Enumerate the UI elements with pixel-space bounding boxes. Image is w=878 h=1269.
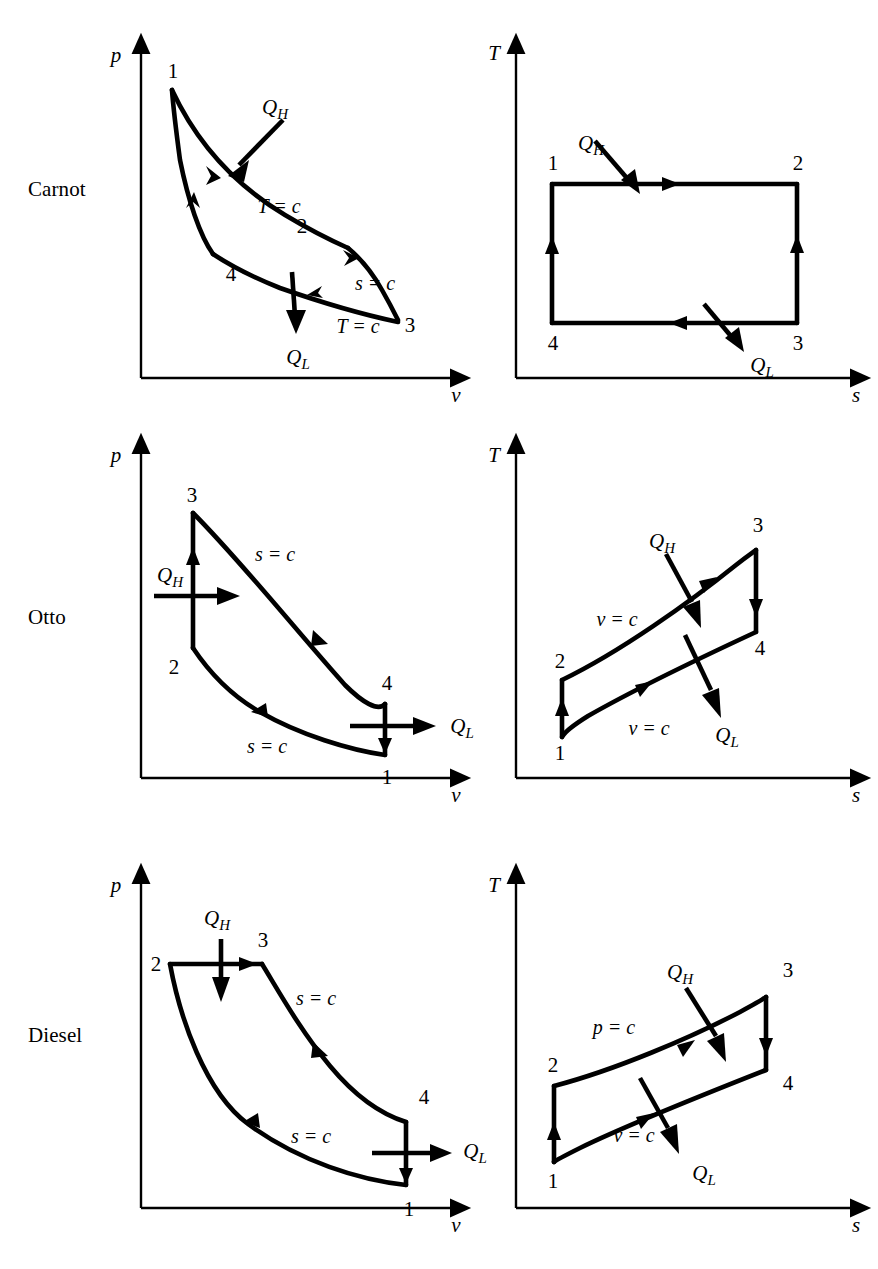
diesel-ts-label-isobaric: p = c xyxy=(591,1016,635,1039)
diesel-ts-label-isochoric: v = c xyxy=(613,1124,654,1146)
otto-pv-diagram: p v 3 2 4 1 s = c s = c xyxy=(0,420,440,840)
carnot-ts-diagram: T s 1 2 3 4 QH QL xyxy=(440,0,878,420)
carnot-pv-flow-arrow-1-2 xyxy=(206,166,221,185)
otto-ts-qh-arrow-shaft xyxy=(666,554,692,602)
carnot-ts-panel: T s 1 2 3 4 QH QL xyxy=(440,0,878,420)
cycle-row-carnot: Carnot p v xyxy=(0,0,878,420)
otto-pv-state-4: 4 xyxy=(382,671,393,695)
carnot-ts-flow-arrow-3-4 xyxy=(669,316,687,330)
otto-pv-flow-arrow-2-3 xyxy=(186,547,200,565)
carnot-pv-ql-label: QL xyxy=(286,345,310,372)
carnot-pv-state-3: 3 xyxy=(405,313,416,337)
otto-pv-qh-arrow-head xyxy=(217,587,240,605)
diesel-pv-qh-arrow-head xyxy=(212,977,230,1002)
carnot-pv-qh-label: QH xyxy=(262,95,289,122)
diesel-ts-flow-arrow-1-2 xyxy=(547,1122,561,1140)
otto-pv-state-3: 3 xyxy=(187,483,198,507)
carnot-pv-state-1: 1 xyxy=(168,59,179,83)
diesel-pv-state-1: 1 xyxy=(404,1197,415,1221)
carnot-pv-process-4-1 xyxy=(172,90,213,254)
otto-pv-label-isentropic-compression: s = c xyxy=(247,735,287,757)
otto-ts-ql-label: QL xyxy=(715,723,739,750)
diesel-ts-qh-label: QH xyxy=(667,960,694,987)
diesel-pv-label-isentropic-compression: s = c xyxy=(291,1125,331,1147)
cycle-row-otto: Otto p v 3 2 xyxy=(0,420,878,840)
diesel-ts-state-1: 1 xyxy=(548,1169,559,1193)
carnot-pv-label-isothermal-low: T = c xyxy=(336,315,379,337)
carnot-pv-qh-arrow-shaft xyxy=(239,120,283,165)
diesel-pv-process-1-2 xyxy=(170,964,406,1185)
otto-pv-y-axis-label: p xyxy=(109,443,122,467)
carnot-ts-x-axis-label: s xyxy=(852,383,860,407)
diesel-pv-label-isentropic-expansion: s = c xyxy=(296,987,336,1009)
diesel-ts-diagram: QL T s 2 1 3 4 xyxy=(440,840,878,1269)
otto-ts-ql-arrow-head xyxy=(702,688,721,718)
otto-ts-x-axis-label: s xyxy=(852,783,860,807)
diesel-ts-ql-label: QL xyxy=(692,1161,716,1188)
cycle-row-diesel: Diesel p v 2 3 xyxy=(0,840,878,1269)
carnot-pv-panel: p v 1 2 3 4 T xyxy=(0,0,440,420)
diesel-ts-flow-arrow-3-4 xyxy=(759,1038,773,1056)
diesel-ts-ql-arrow-head xyxy=(660,1124,679,1154)
otto-pv-state-2: 2 xyxy=(169,655,180,679)
carnot-ts-flow-arrow-2-3 xyxy=(790,235,804,253)
carnot-pv-y-axis-label: p xyxy=(109,43,122,67)
carnot-ts-flow-arrow-1-2 xyxy=(662,177,680,191)
carnot-ts-state-4: 4 xyxy=(548,331,559,355)
diesel-pv-panel: p v 2 3 4 1 s = c s = c xyxy=(0,840,440,1269)
carnot-ts-y-axis-label: T xyxy=(488,41,501,65)
carnot-ts-flow-arrow-4-1 xyxy=(545,236,559,254)
carnot-pv-state-2: 2 xyxy=(297,214,308,238)
carnot-pv-label-isentropic: s = c xyxy=(355,272,395,294)
diesel-pv-state-2: 2 xyxy=(151,952,162,976)
otto-pv-process-1-2 xyxy=(193,648,385,755)
carnot-ts-state-3: 3 xyxy=(793,331,804,355)
otto-ts-y-axis-label: T xyxy=(488,443,501,467)
otto-ts-state-3: 3 xyxy=(753,513,764,537)
otto-ts-label-isochoric-high: v = c xyxy=(596,608,637,630)
otto-ts-flow-arrow-4-1 xyxy=(635,681,653,697)
otto-pv-label-isentropic-expansion: s = c xyxy=(255,543,295,565)
diesel-ts-state-2: 2 xyxy=(548,1053,559,1077)
diesel-ts-state-4: 4 xyxy=(783,1071,794,1095)
diesel-pv-ql-label: QL xyxy=(463,1139,487,1166)
carnot-pv-diagram: p v 1 2 3 4 T xyxy=(0,0,440,420)
carnot-ts-state-2: 2 xyxy=(793,151,804,175)
otto-pv-ql-arrow-head xyxy=(413,717,436,735)
otto-pv-panel: p v 3 2 4 1 s = c s = c xyxy=(0,420,440,840)
diesel-ts-qh-arrow-head xyxy=(707,1033,726,1062)
diesel-pv-qh-label: QH xyxy=(204,906,231,933)
otto-pv-qh-label: QH xyxy=(157,563,184,590)
otto-pv-state-1: 1 xyxy=(382,765,393,789)
diesel-pv-state-3: 3 xyxy=(258,928,269,952)
otto-ts-diagram: QL T s 2 1 3 4 xyxy=(440,420,878,840)
otto-ts-state-2: 2 xyxy=(555,649,566,673)
diesel-pv-flow-arrow-4-1 xyxy=(399,1168,413,1184)
otto-ts-process-2-3 xyxy=(562,550,756,680)
diesel-ts-panel: QL T s 2 1 3 4 xyxy=(440,840,878,1269)
diesel-pv-state-4: 4 xyxy=(419,1085,430,1109)
diesel-pv-diagram: p v 2 3 4 1 s = c s = c xyxy=(0,840,440,1269)
otto-ts-state-4: 4 xyxy=(755,636,766,660)
carnot-pv-ql-arrow-head xyxy=(286,310,306,334)
otto-pv-flow-arrow-4-1 xyxy=(378,738,392,754)
otto-ts-flow-arrow-3-4 xyxy=(749,599,763,617)
carnot-ts-state-1: 1 xyxy=(548,151,559,175)
otto-ts-label-isochoric-low: v = c xyxy=(628,717,669,739)
carnot-ts-qh-label: QH xyxy=(578,131,605,158)
carnot-pv-state-4: 4 xyxy=(226,262,237,286)
otto-pv-ql-label: QL xyxy=(450,714,474,741)
diesel-ts-y-axis-label: T xyxy=(488,873,501,897)
diesel-ts-state-3: 3 xyxy=(783,958,794,982)
diesel-pv-flow-arrow-3-4 xyxy=(311,1042,328,1058)
otto-pv-flow-arrow-3-4 xyxy=(311,630,328,646)
diesel-pv-y-axis-label: p xyxy=(109,873,122,897)
otto-ts-flow-arrow-1-2 xyxy=(555,698,569,716)
otto-ts-panel: QL T s 2 1 3 4 xyxy=(440,420,878,840)
carnot-ts-ql-label: QL xyxy=(750,353,774,380)
thermodynamic-cycles-figure: Carnot p v xyxy=(0,0,878,1269)
diesel-ts-x-axis-label: s xyxy=(852,1213,860,1237)
carnot-ts-ql-arrow-shaft xyxy=(704,304,730,335)
otto-ts-state-1: 1 xyxy=(555,741,566,765)
otto-ts-qh-label: QH xyxy=(649,529,676,556)
